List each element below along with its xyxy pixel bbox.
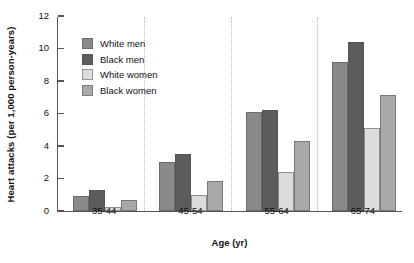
legend-label: Black men <box>100 54 144 65</box>
y-tick-mark <box>58 80 64 81</box>
bar <box>262 110 278 211</box>
legend-label: White men <box>100 38 145 49</box>
bar <box>364 128 380 211</box>
group-separator <box>317 17 318 211</box>
x-tick-label: 55-64 <box>245 205 309 216</box>
bar <box>246 112 262 211</box>
y-tick-mark <box>58 178 64 179</box>
y-tick-mark <box>58 113 64 114</box>
legend-item: Black women <box>82 83 158 99</box>
bar-group-65-74 <box>332 17 396 211</box>
y-tick-label: 8 <box>44 75 49 86</box>
legend-swatch-icon <box>82 54 93 65</box>
y-tick-label: 0 <box>44 205 49 216</box>
y-axis-title: Heart attacks (per 1,000 person-years) <box>5 10 16 220</box>
bar-group-55-64 <box>246 17 310 211</box>
bar <box>348 42 364 211</box>
x-tick-label: 45-54 <box>158 205 222 216</box>
y-tick-label: 6 <box>44 107 49 118</box>
x-axis-title: Age (yr) <box>57 237 402 248</box>
legend-item: White women <box>82 67 158 83</box>
legend-label: Black women <box>100 85 157 96</box>
legend: White menBlack menWhite womenBlack women <box>82 36 158 98</box>
y-tick-mark <box>58 210 64 211</box>
bar <box>175 154 191 211</box>
x-tick-label: 35-44 <box>72 205 136 216</box>
legend-item: White men <box>82 36 158 52</box>
bar <box>294 141 310 211</box>
y-tick-label: 12 <box>38 10 49 21</box>
legend-label: White women <box>100 69 158 80</box>
legend-item: Black men <box>82 52 158 68</box>
y-tick-mark <box>58 145 64 146</box>
legend-swatch-icon <box>82 38 93 49</box>
bar <box>332 62 348 212</box>
legend-swatch-icon <box>82 69 93 80</box>
bar-group-45-54 <box>159 17 223 211</box>
x-tick-label: 65-74 <box>331 205 395 216</box>
legend-swatch-icon <box>82 85 93 96</box>
y-tick-mark <box>58 48 64 49</box>
group-separator <box>231 17 232 211</box>
y-tick-label: 2 <box>44 172 49 183</box>
heart-attacks-bar-chart: Heart attacks (per 1,000 person-years) 0… <box>0 0 414 263</box>
bar <box>159 162 175 211</box>
bar <box>380 95 396 211</box>
y-tick-label: 10 <box>38 42 49 53</box>
y-tick-label: 4 <box>44 140 49 151</box>
y-tick-mark <box>58 15 64 16</box>
